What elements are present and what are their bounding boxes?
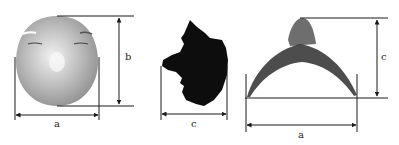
label-b: b	[125, 51, 131, 62]
diagram-canvas: b a c c a	[0, 0, 399, 145]
nose-peak-cloud	[288, 18, 316, 46]
side-profile-panel: c	[161, 20, 228, 129]
cross-section-panel: c a	[245, 18, 388, 140]
arch-point-cloud	[247, 44, 357, 97]
label-c-side: c	[191, 118, 197, 129]
nose-highlight	[49, 52, 65, 72]
label-a-front: a	[54, 118, 60, 129]
label-a-top: a	[298, 129, 304, 140]
frontal-face-panel: b a	[15, 16, 134, 129]
profile-silhouette	[162, 20, 228, 106]
label-c-top: c	[381, 51, 387, 62]
